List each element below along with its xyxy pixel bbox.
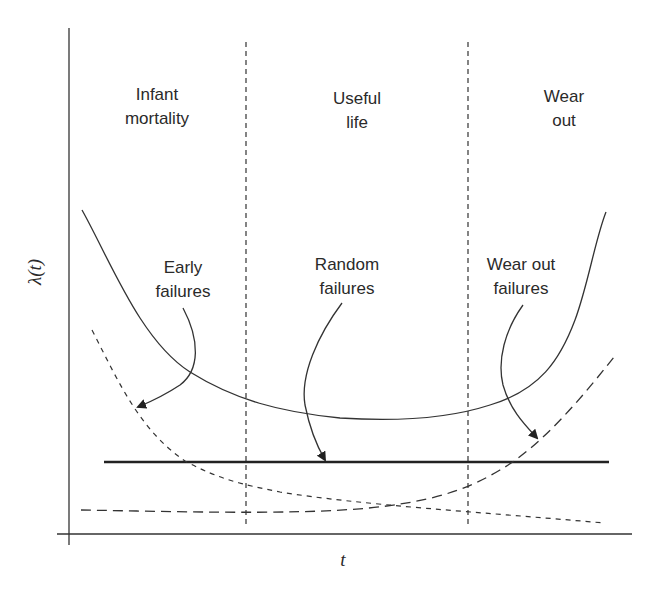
annotation-wear-out-failures: Wear out failures	[487, 255, 556, 298]
annotation-line1: Wear out	[487, 255, 556, 274]
annotation-line1: Random	[315, 255, 379, 274]
annotation-early-failures: Early failures	[156, 258, 211, 301]
region-label-line2: mortality	[125, 109, 190, 128]
bathtub-curve	[82, 210, 606, 419]
region-label-wear-out: Wear out	[544, 87, 585, 130]
annotation-line2: failures	[320, 279, 375, 298]
wear-out-failures-arrow	[501, 305, 537, 438]
region-label-line1: Useful	[333, 89, 381, 108]
annotation-line2: failures	[494, 279, 549, 298]
region-label-line2: out	[552, 111, 576, 130]
annotation-line2: failures	[156, 282, 211, 301]
random-failures-arrow	[304, 303, 342, 460]
annotation-line1: Early	[164, 258, 203, 277]
region-label-line1: Wear	[544, 87, 585, 106]
annotation-random-failures: Random failures	[315, 255, 379, 298]
x-axis-label: t	[340, 549, 346, 570]
region-label-useful-life: Useful life	[333, 89, 381, 132]
region-label-infant-mortality: Infant mortality	[125, 85, 190, 128]
y-axis-label: λ(t)	[24, 259, 46, 286]
region-label-line1: Infant	[136, 85, 179, 104]
region-label-line2: life	[346, 113, 368, 132]
early-failures-arrow	[138, 308, 195, 407]
bathtub-curve-diagram: Infant mortality Useful life Wear out Ea…	[0, 0, 658, 591]
